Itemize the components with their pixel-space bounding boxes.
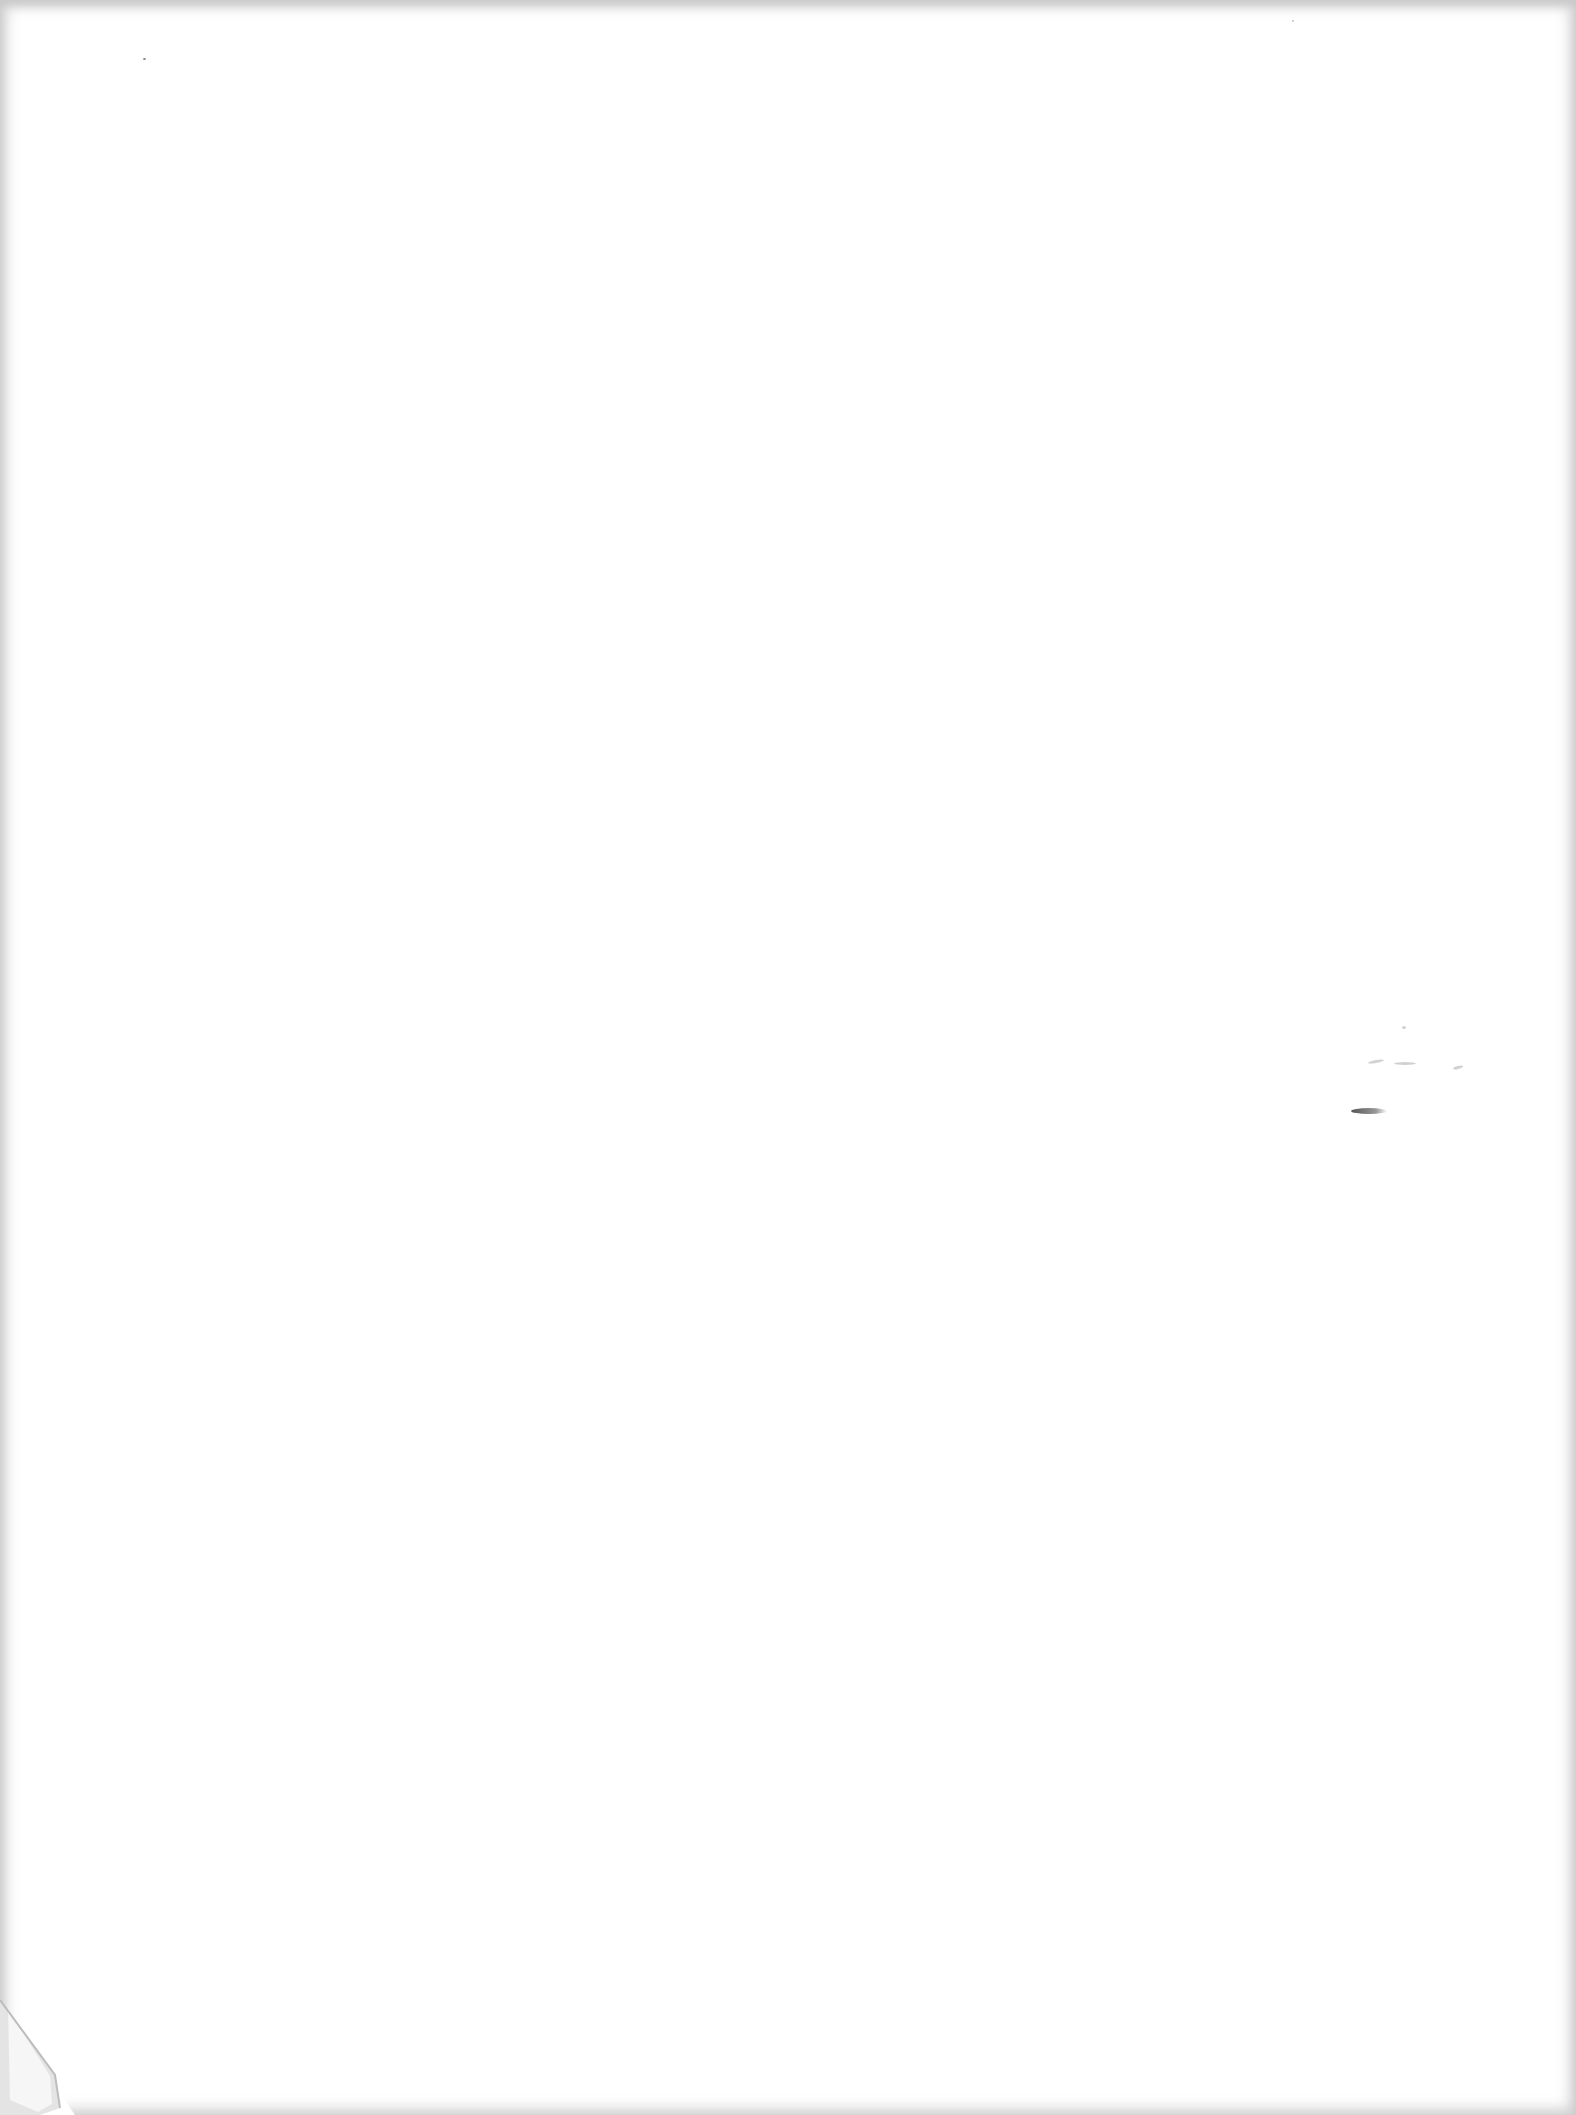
faint-mark — [1394, 1062, 1416, 1065]
dust-speck — [143, 58, 146, 60]
ink-smudge — [1351, 1108, 1387, 1114]
faint-mark — [1368, 1059, 1384, 1065]
scanned-blank-page — [0, 0, 1576, 2115]
faint-mark — [1402, 1026, 1406, 1029]
faint-mark — [1453, 1065, 1463, 1070]
dust-speck — [1292, 20, 1294, 22]
folded-corner — [0, 2000, 75, 2115]
